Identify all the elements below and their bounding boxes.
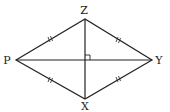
vertex-label-x: X	[81, 100, 89, 112]
rhombus-outline	[16, 19, 152, 99]
vertex-label-y: Y	[154, 54, 163, 67]
vertex-label-p: P	[3, 54, 11, 67]
rhombus-diagram: Z Y X P	[0, 0, 170, 112]
vertex-label-z: Z	[80, 4, 88, 17]
right-angle-marker	[85, 55, 90, 60]
